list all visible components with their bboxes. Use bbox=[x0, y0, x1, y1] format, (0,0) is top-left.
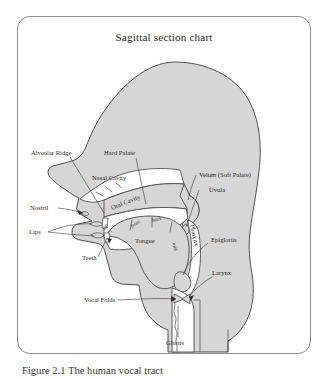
label-tongue: Tongue bbox=[135, 237, 155, 244]
label-lips: Lips bbox=[29, 228, 41, 235]
figure-caption: Figure 2.1 The human vocal tract bbox=[22, 365, 312, 376]
label-alveolar-ridge: Alveolar Ridge bbox=[31, 149, 72, 156]
label-nostril: Nostril bbox=[30, 204, 48, 211]
label-velum: Velum (Soft Palate) bbox=[199, 171, 251, 179]
label-glottis: Glottis bbox=[166, 339, 184, 346]
sagittal-section-figure: Sagittal section chart bbox=[0, 0, 328, 379]
label-hard-palate: Hard Palate bbox=[104, 149, 135, 156]
label-teeth: Teeth bbox=[82, 254, 97, 261]
label-uvula: Uvula bbox=[209, 186, 225, 193]
label-epiglottis: Epiglottis bbox=[211, 236, 237, 243]
label-vocal-folds: Vocal Folds bbox=[84, 296, 116, 303]
label-larynx: Larynx bbox=[212, 269, 232, 276]
sagittal-head-diagram: Alveolar Ridge Hard Palate Velum (Soft P… bbox=[0, 0, 328, 379]
label-nasal-cavity: Nasal Cavity bbox=[92, 174, 127, 181]
